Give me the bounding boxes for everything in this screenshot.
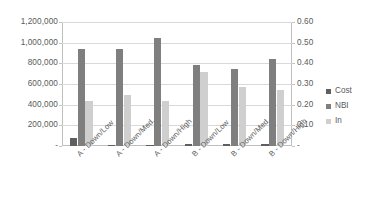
left-axis-tick-label: 600,000 [28, 79, 58, 88]
bar-cost [223, 144, 230, 146]
legend-item[interactable]: In [326, 114, 352, 129]
gridline [62, 105, 292, 106]
legend-swatch-icon [326, 104, 331, 109]
legend-item[interactable]: NBI [326, 99, 352, 114]
right-axis-tick-label: 0.40 [297, 58, 313, 67]
right-axis-tick-label: 0.60 [297, 17, 313, 26]
left-axis-tick [59, 22, 62, 23]
legend-label: NBI [335, 102, 349, 110]
bar-nbi [193, 65, 200, 146]
right-axis-tick [292, 63, 295, 64]
bar-nbi [269, 59, 276, 146]
right-axis-tick-label: - [297, 141, 300, 150]
legend-label: In [335, 117, 342, 125]
bar-cost [70, 138, 77, 146]
left-axis-tick [59, 63, 62, 64]
gridline [62, 43, 292, 44]
chart-legend: CostNBIIn [326, 84, 352, 129]
bar-cost [185, 144, 192, 146]
gridline [62, 63, 292, 64]
bar-nbi [154, 38, 161, 147]
left-axis-tick [59, 105, 62, 106]
bar-nbi [116, 49, 123, 146]
bar-chart: 1,200,0001,000,000800,000600,000400,0002… [0, 0, 374, 217]
left-axis-tick [59, 84, 62, 85]
gridline [62, 22, 292, 23]
bar-group [70, 22, 93, 146]
left-axis-tick-label: 400,000 [28, 100, 58, 109]
right-axis-tick-label: 0.30 [297, 79, 313, 88]
right-axis-tick [292, 146, 295, 147]
legend-swatch-icon [326, 119, 331, 124]
bar-cost [261, 144, 268, 146]
bar-nbi [78, 49, 85, 146]
left-axis-tick [59, 43, 62, 44]
right-axis-tick [292, 84, 295, 85]
left-axis-tick [59, 146, 62, 147]
gridline [62, 84, 292, 85]
right-axis-tick [292, 43, 295, 44]
left-axis-tick-label: 1,200,000 [21, 17, 58, 26]
bar-nbi [231, 69, 238, 147]
left-axis-tick-label: 1,000,000 [21, 38, 58, 47]
right-axis-tick [292, 22, 295, 23]
right-axis-tick-label: 0.20 [297, 100, 313, 109]
right-axis-tick [292, 105, 295, 106]
bar-cost [108, 145, 115, 146]
legend-swatch-icon [326, 89, 331, 94]
legend-label: Cost [335, 87, 352, 95]
right-axis-tick-label: 0.50 [297, 38, 313, 47]
left-axis-tick-label: 800,000 [28, 58, 58, 67]
left-axis-tick-label: 200,000 [28, 120, 58, 129]
left-axis-tick [59, 125, 62, 126]
left-axis-tick-label: - [55, 141, 58, 150]
category-axis-line [62, 145, 292, 146]
legend-item[interactable]: Cost [326, 84, 352, 99]
bar-cost [146, 145, 153, 146]
